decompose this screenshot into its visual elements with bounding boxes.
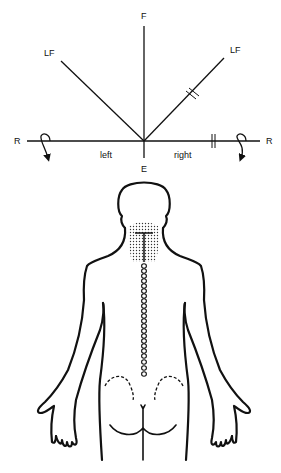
iliac-crest-dashes [105,376,183,400]
head-outline [118,183,170,229]
right-outer-outline [163,228,250,443]
double-tick-mark-diagonal [186,88,199,99]
label-lateral-flexion-left: LF [44,48,55,58]
label-rotation-right: R [266,136,273,146]
diagram-canvas: F E LF LF R R left right [0,0,281,473]
left-rotation-arrow-icon [41,134,50,158]
right-hand-fingers [211,400,232,447]
label-flexion: F [141,11,147,21]
left-outer-outline [38,228,125,443]
label-left-side: left [100,150,113,160]
right-lateral-flexion-axis [144,58,224,141]
left-lateral-flexion-axis [61,61,144,141]
left-hand-fingers [56,400,77,447]
label-right-side: right [174,150,192,160]
spine-vertebrae [142,264,147,376]
motion-axes [27,26,260,158]
label-extension: E [141,164,147,174]
right-rotation-arrow-icon [237,134,246,158]
label-lateral-flexion-right: LF [230,45,241,55]
gluteal-cleft [141,405,145,460]
label-rotation-left: R [14,136,21,146]
